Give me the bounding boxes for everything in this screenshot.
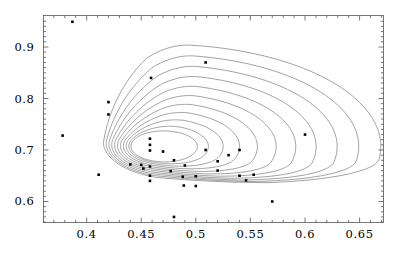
data-point [149,165,152,168]
axis-ticks-group [44,16,384,223]
data-point [304,133,307,136]
y-tick-label: 0.7 [14,143,34,157]
data-point [204,149,207,152]
data-point [173,216,176,219]
y-tick-label: 0.9 [14,40,34,54]
data-point [181,175,184,178]
contour-line-10 [106,56,359,182]
data-point [140,164,143,167]
data-point [142,167,145,170]
data-point [149,144,152,147]
data-point [149,137,152,140]
data-point [183,184,186,187]
y-tick-label: 0.6 [14,194,34,208]
data-point [216,160,219,163]
data-point [169,170,172,173]
scatter-contour-plot: 0.40.450.50.550.60.65 0.60.70.80.9 [0,0,396,260]
data-point [252,173,255,176]
data-point [195,185,198,188]
data-point [107,101,110,104]
x-tick-label: 0.55 [236,227,264,241]
data-point [129,163,132,166]
plot-canvas: 0.40.450.50.550.60.65 0.60.70.80.9 [0,0,396,260]
data-point [271,200,274,203]
data-point [71,20,74,23]
frame-rect [44,16,384,223]
data-point [195,175,198,178]
contour-line-5 [120,104,257,171]
data-point [150,77,153,80]
data-point [173,159,176,162]
x-tick-label: 0.5 [186,227,206,241]
x-tick-label: 0.45 [127,227,155,241]
data-point [97,173,100,176]
x-axis-tick-labels: 0.40.450.50.550.60.65 [77,227,374,241]
data-points-group [61,20,306,218]
contour-line-2 [129,126,209,163]
contour-lines-group [103,45,380,183]
data-point [107,113,110,116]
data-point [238,174,241,177]
data-point [227,154,230,157]
data-point [149,180,152,183]
data-point [149,174,152,177]
data-point [238,149,241,152]
data-point [184,164,187,167]
data-point [216,169,219,172]
x-tick-label: 0.65 [346,227,374,241]
data-point [149,149,152,152]
data-point [61,134,64,137]
data-point [162,150,165,153]
contour-line-1 [131,131,197,162]
y-axis-tick-labels: 0.60.70.80.9 [14,40,34,208]
data-point [204,61,207,64]
x-tick-label: 0.4 [77,227,97,241]
y-tick-label: 0.8 [14,92,34,106]
x-tick-label: 0.6 [295,227,315,241]
plot-frame [44,16,384,223]
data-point [245,179,248,182]
